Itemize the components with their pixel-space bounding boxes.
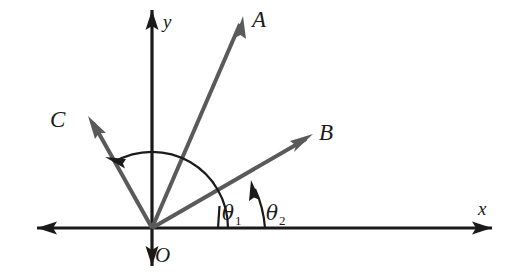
vector-c-arrowhead [88,116,106,139]
x-axis-label: x [477,198,487,219]
theta1-label: θ1 [222,201,242,228]
vector-c-line [93,123,152,228]
theta2-symbol: θ [266,201,278,225]
vector-a-label: A [250,7,267,32]
vector-b-arrowhead [290,134,313,152]
diagram-canvas: A B C x y O θ1 θ2 [0,0,517,273]
vector-a-arrowhead [235,16,247,39]
vector-a-line [152,24,240,228]
theta2-label: θ2 [266,201,286,228]
vector-angle-diagram: A B C x y O θ1 θ2 [0,0,517,273]
theta1-subscript: 1 [235,213,242,228]
theta1-arc-baseline-tick [218,206,220,228]
vectors-group [88,16,313,228]
y-axis-label: y [161,11,172,32]
vector-b-label: B [319,120,333,145]
theta2-arc-arrowhead [249,180,260,201]
origin-label: O [155,243,170,267]
theta2-subscript: 2 [279,213,286,228]
vector-c-label: C [50,107,66,132]
theta1-symbol: θ [222,201,234,225]
